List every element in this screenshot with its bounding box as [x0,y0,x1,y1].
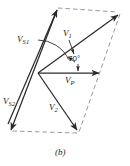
vector-diagram-figure: VS1 V1 VP VS2 V2 70° (b) [0,0,130,166]
label-v2: V2 [49,103,58,114]
label-v2-subscript: 2 [55,106,58,113]
label-vs2-subscript: S2 [9,100,16,107]
figure-caption: (b) [55,148,66,157]
label-v1: V1 [63,29,72,40]
label-vp: VP [65,76,75,87]
label-angle-70: 70° [68,55,80,63]
label-vs2: VS2 [3,97,15,108]
label-vs1: VS1 [17,35,29,46]
label-vs1-subscript: S1 [23,38,30,45]
parallelogram-top-dashed [58,8,118,12]
parallelogram-bottom-dashed [12,131,77,133]
label-v1-subscript: 1 [69,32,72,39]
label-vp-subscript: P [71,79,75,86]
